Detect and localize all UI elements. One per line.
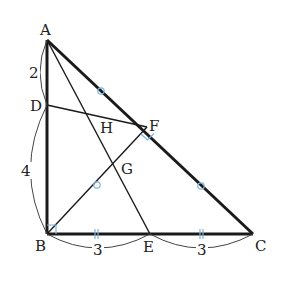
point-label-g: G <box>121 160 133 178</box>
length-label-db: 4 <box>21 162 31 180</box>
length-label-ec: 3 <box>197 241 207 259</box>
point-label-f: F <box>149 117 159 135</box>
point-label-e: E <box>143 238 154 256</box>
length-label-be: 3 <box>93 241 103 259</box>
point-label-a: A <box>39 21 51 39</box>
circle-mark-bf <box>94 182 100 188</box>
geometry-figure: 2 4 3 3 A B C D E F G H <box>0 0 283 286</box>
length-label-ad: 2 <box>29 64 39 82</box>
point-label-h: H <box>100 119 113 137</box>
segment-df <box>47 105 147 127</box>
arc-db <box>31 105 48 234</box>
segment-bf <box>47 127 147 234</box>
point-label-d: D <box>30 97 42 115</box>
point-label-c: C <box>255 237 266 255</box>
point-label-b: B <box>35 237 46 255</box>
segment-ae <box>47 40 150 234</box>
